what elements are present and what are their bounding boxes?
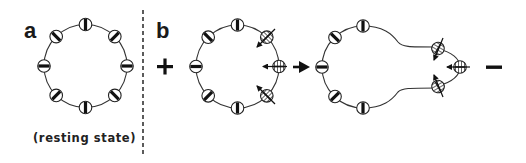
panel-b-deformed-ring <box>316 20 470 115</box>
resting-state-caption: (resting state) <box>33 131 136 145</box>
panel-b-label: b <box>156 20 169 42</box>
panel-a-label: a <box>24 20 36 42</box>
minus-sign-icon <box>486 66 502 69</box>
panel-a-ring <box>38 18 134 114</box>
panel-b-ring <box>190 19 287 115</box>
transition-arrow <box>293 61 310 73</box>
plus-sign-icon <box>157 59 173 75</box>
